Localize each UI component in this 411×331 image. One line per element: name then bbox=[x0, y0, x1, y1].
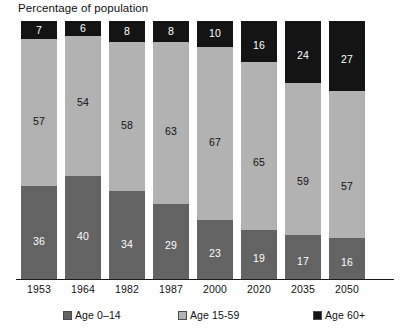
bar-value-label: 65 bbox=[253, 157, 265, 168]
bar-segment-age-60-plus[interactable]: 7 bbox=[21, 21, 57, 39]
legend-label: Age 60+ bbox=[325, 309, 365, 321]
legend-item-age-60-plus[interactable]: Age 60+ bbox=[313, 309, 365, 321]
bar-column-2020[interactable]: 16 65 19 bbox=[241, 21, 277, 279]
x-tick-label: 2000 bbox=[197, 282, 233, 296]
bar-value-label: 8 bbox=[168, 26, 174, 37]
bar-segment-age-0-14[interactable]: 36 bbox=[21, 186, 57, 279]
legend-item-age-0-14[interactable]: Age 0–14 bbox=[63, 309, 121, 321]
bar-value-label: 16 bbox=[341, 257, 353, 268]
bar-value-label: 57 bbox=[33, 116, 45, 127]
legend-label: Age 0–14 bbox=[75, 309, 121, 321]
x-tick-label: 1987 bbox=[153, 282, 189, 296]
bar-segment-age-0-14[interactable]: 19 bbox=[241, 230, 277, 279]
x-axis-line bbox=[16, 279, 394, 280]
bar-segment-age-0-14[interactable]: 34 bbox=[109, 191, 145, 279]
bar-value-label: 8 bbox=[124, 26, 130, 37]
x-tick-label: 2050 bbox=[329, 282, 365, 296]
x-axis-tick-labels: 1953 1964 1982 1987 2000 2020 2035 2050 bbox=[21, 282, 390, 298]
legend-swatch-icon bbox=[178, 311, 187, 320]
x-tick-label: 1964 bbox=[65, 282, 101, 296]
legend-swatch-icon bbox=[313, 311, 322, 320]
legend-swatch-icon bbox=[63, 311, 72, 320]
bar-value-label: 16 bbox=[253, 40, 265, 51]
bar-column-2050[interactable]: 27 57 16 bbox=[329, 21, 365, 279]
stacked-bar-chart: Percentage of population 7 57 36 6 54 40 bbox=[0, 0, 411, 331]
bar-segment-age-60-plus[interactable]: 10 bbox=[197, 21, 233, 47]
bar-segment-age-15-59[interactable]: 57 bbox=[21, 39, 57, 186]
x-tick-label: 2020 bbox=[241, 282, 277, 296]
bar-segment-age-0-14[interactable]: 23 bbox=[197, 220, 233, 279]
bar-column-2000[interactable]: 10 67 23 bbox=[197, 21, 233, 279]
bar-segment-age-15-59[interactable]: 59 bbox=[285, 83, 321, 235]
bar-value-label: 17 bbox=[297, 256, 309, 267]
x-tick-label: 1953 bbox=[21, 282, 57, 296]
bar-value-label: 24 bbox=[297, 50, 309, 61]
bar-value-label: 63 bbox=[165, 126, 177, 137]
bar-value-label: 19 bbox=[253, 253, 265, 264]
bar-value-label: 7 bbox=[36, 25, 42, 36]
bar-value-label: 36 bbox=[33, 236, 45, 247]
bar-segment-age-15-59[interactable]: 57 bbox=[329, 91, 365, 238]
bar-value-label: 40 bbox=[77, 231, 89, 242]
bar-value-label: 67 bbox=[209, 137, 221, 148]
legend-item-age-15-59[interactable]: Age 15-59 bbox=[178, 309, 239, 321]
bar-segment-age-15-59[interactable]: 67 bbox=[197, 47, 233, 220]
bar-segment-age-15-59[interactable]: 63 bbox=[153, 42, 189, 205]
bar-segment-age-60-plus[interactable]: 8 bbox=[109, 21, 145, 42]
bar-value-label: 6 bbox=[80, 23, 86, 34]
bar-column-1964[interactable]: 6 54 40 bbox=[65, 21, 101, 279]
bar-value-label: 23 bbox=[209, 248, 221, 259]
bar-value-label: 54 bbox=[77, 97, 89, 108]
plot-area: 7 57 36 6 54 40 8 bbox=[21, 21, 390, 279]
bar-column-1987[interactable]: 8 63 29 bbox=[153, 21, 189, 279]
bar-segment-age-15-59[interactable]: 65 bbox=[241, 62, 277, 230]
bar-segment-age-60-plus[interactable]: 16 bbox=[241, 21, 277, 62]
legend-label: Age 15-59 bbox=[190, 309, 239, 321]
bar-column-1953[interactable]: 7 57 36 bbox=[21, 21, 57, 279]
bar-segment-age-0-14[interactable]: 40 bbox=[65, 176, 101, 279]
bar-column-2035[interactable]: 24 59 17 bbox=[285, 21, 321, 279]
x-tick-label: 2035 bbox=[285, 282, 321, 296]
bar-segment-age-0-14[interactable]: 16 bbox=[329, 238, 365, 279]
bar-segment-age-15-59[interactable]: 54 bbox=[65, 36, 101, 175]
bar-value-label: 29 bbox=[165, 240, 177, 251]
bar-value-label: 58 bbox=[121, 120, 133, 131]
bar-value-label: 10 bbox=[209, 28, 221, 39]
bar-value-label: 59 bbox=[297, 176, 309, 187]
chart-title: Percentage of population bbox=[18, 1, 148, 16]
x-tick-label: 1982 bbox=[109, 282, 145, 296]
bar-segment-age-0-14[interactable]: 17 bbox=[285, 235, 321, 279]
bar-column-1982[interactable]: 8 58 34 bbox=[109, 21, 145, 279]
bar-segment-age-60-plus[interactable]: 24 bbox=[285, 21, 321, 83]
bar-segment-age-60-plus[interactable]: 27 bbox=[329, 21, 365, 91]
bar-value-label: 57 bbox=[341, 181, 353, 192]
bar-value-label: 34 bbox=[121, 239, 133, 250]
bar-segment-age-60-plus[interactable]: 6 bbox=[65, 21, 101, 36]
bar-value-label: 27 bbox=[341, 54, 353, 65]
chart-legend: Age 0–14 Age 15-59 Age 60+ bbox=[0, 309, 411, 325]
bar-segment-age-60-plus[interactable]: 8 bbox=[153, 21, 189, 42]
bar-segment-age-0-14[interactable]: 29 bbox=[153, 204, 189, 279]
bar-segment-age-15-59[interactable]: 58 bbox=[109, 42, 145, 192]
